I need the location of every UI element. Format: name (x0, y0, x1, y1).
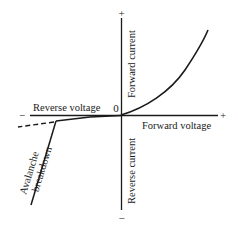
avalanche-breakdown-label: Avalanche breakdown (17, 141, 54, 198)
y-axis-minus-sign: − (118, 212, 124, 224)
y-axis-plus-sign: + (118, 7, 124, 19)
x-axis-plus-sign: + (220, 109, 226, 121)
reverse-current-label: Reverse current (126, 138, 137, 204)
dashed-extension-line (18, 122, 54, 127)
reverse-voltage-label: Reverse voltage (33, 102, 101, 113)
forward-current-label: Forward current (126, 30, 137, 98)
origin-label: 0 (113, 102, 119, 114)
forward-voltage-label: Forward voltage (142, 120, 211, 131)
x-axis-minus-sign: − (19, 109, 25, 121)
diode-iv-diagram: + − − + 0 Reverse voltage Forward voltag… (0, 0, 238, 225)
reverse-leakage-line (56, 116, 121, 122)
